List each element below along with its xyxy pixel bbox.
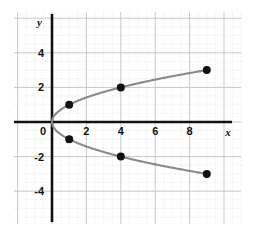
data-point xyxy=(65,135,73,143)
x-tick-8: 8 xyxy=(187,125,193,137)
data-point xyxy=(117,153,125,161)
chart-figure: 02468 42-2-4 x y xyxy=(0,0,259,228)
data-point xyxy=(117,83,125,91)
x-tick-2: 2 xyxy=(83,125,89,137)
y-tick--4: -4 xyxy=(34,185,45,197)
x-tick-6: 6 xyxy=(152,125,158,137)
data-point xyxy=(203,170,211,178)
graph-canvas: 02468 42-2-4 x y xyxy=(0,0,259,228)
y-tick-4: 4 xyxy=(38,47,45,59)
data-point xyxy=(65,101,73,109)
y-tick--2: -2 xyxy=(34,151,44,163)
data-point xyxy=(203,66,211,74)
x-axis-label: x xyxy=(224,126,231,138)
x-tick-4: 4 xyxy=(118,125,125,137)
x-tick-0: 0 xyxy=(40,125,46,137)
y-tick-2: 2 xyxy=(38,81,44,93)
y-axis-label: y xyxy=(35,16,42,28)
